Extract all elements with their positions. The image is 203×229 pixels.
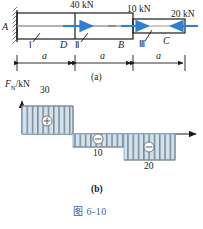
node-label-c: C — [163, 36, 170, 46]
value-label-20: 20 — [144, 162, 154, 172]
node-label-b: B — [118, 40, 124, 50]
force-block-segment-1 — [22, 106, 73, 134]
load-label-10kn: 10 kN — [127, 5, 151, 15]
section-label-3: Ⅲ — [139, 40, 145, 49]
dimension-label-a1: a — [42, 51, 47, 61]
section-label-1: Ⅰ — [29, 41, 32, 50]
force-block-segment-3 — [124, 134, 175, 160]
dimension-label-a2: a — [100, 51, 105, 61]
subfigure-label-a: (a) — [91, 73, 102, 83]
dimension-label-a3: a — [156, 51, 161, 61]
node-label-d: D — [60, 40, 67, 50]
load-label-40kn: 40 kN — [70, 1, 94, 11]
section-label-2: Ⅱ — [75, 41, 79, 50]
figure-6-10: A 40 kN 10 kN 20 kN D B C Ⅰ Ⅱ Ⅲ a a a (a… — [0, 0, 203, 229]
y-axis-label: FN/kN — [5, 80, 30, 91]
load-label-20kn: 20 kN — [171, 10, 195, 20]
figure-caption: 图 6-10 — [73, 207, 107, 217]
support-label-a: A — [2, 22, 8, 32]
axial-force-diagram-svg — [0, 93, 203, 188]
value-label-30: 30 — [40, 86, 50, 96]
force-block-segment-2 — [73, 134, 124, 147]
fixed-support-hatching — [13, 7, 18, 44]
value-label-10: 10 — [93, 149, 103, 159]
section-leader-lines — [33, 30, 152, 42]
y-axis-label-unit: /kN — [16, 79, 30, 89]
subfigure-label-b: (b) — [91, 185, 103, 195]
